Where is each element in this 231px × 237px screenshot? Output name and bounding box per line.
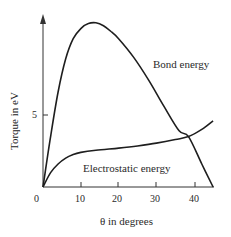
bond-energy-label: Bond energy (153, 59, 209, 70)
y-axis-title: Torque in eV (9, 92, 20, 150)
x-tick-label-30: 30 (150, 194, 160, 204)
y-axis-arrow-icon (40, 14, 46, 24)
y-tick-label-5: 5 (32, 110, 37, 120)
x-axis-title: θ in degrees (100, 216, 153, 227)
electrostatic-energy-line (43, 121, 213, 187)
x-tick-label-20: 20 (112, 194, 122, 204)
x-tick-label-40: 40 (189, 194, 199, 204)
electrostatic-energy-label: Electrostatic energy (83, 163, 170, 174)
x-tick-label-0: 0 (34, 194, 39, 204)
x-tick-label-10: 10 (75, 194, 85, 204)
